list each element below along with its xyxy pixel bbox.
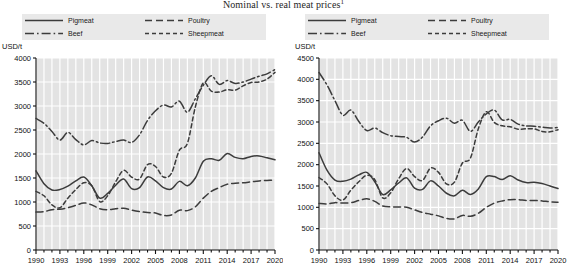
y-axis-tick-label: 4000	[297, 75, 314, 84]
x-axis-tick-label: 2014	[502, 256, 519, 265]
figure-title-text: Nominal vs. real meat prices	[223, 0, 340, 10]
x-axis-tick-label: 1999	[382, 256, 399, 265]
x-axis-tick-label: 2017	[243, 256, 260, 265]
y-axis-tick-label: 3500	[14, 78, 31, 87]
y-axis-tick-label: 2500	[14, 126, 31, 135]
x-axis-tick-label: 2008	[454, 256, 471, 265]
x-axis-tick-label: 2020	[267, 256, 283, 265]
chart-real: 0500100015002000250030003500400045001990…	[283, 10, 567, 272]
y-axis-tick-label: 2000	[14, 150, 31, 159]
x-axis-tick-label: 1999	[99, 256, 116, 265]
x-axis-tick-label: 2011	[478, 256, 494, 265]
figure-root: Nominal vs. real meat prices1 Pigmeat Po…	[0, 0, 567, 272]
x-axis-tick-label: 2005	[430, 256, 447, 265]
y-axis-tick-label: 1000	[14, 198, 31, 207]
x-axis-tick-label: 1996	[75, 256, 92, 265]
x-axis-tick-label: 2002	[123, 256, 140, 265]
y-axis-tick-label: 2000	[297, 160, 314, 169]
x-axis-tick-label: 2008	[171, 256, 188, 265]
y-axis-tick-label: 0	[310, 246, 314, 255]
x-axis-tick-label: 2002	[406, 256, 423, 265]
y-axis-tick-label: 3000	[297, 118, 314, 127]
x-axis-tick-label: 1993	[52, 256, 69, 265]
y-axis-tick-label: 500	[18, 222, 31, 231]
x-axis-tick-label: 1990	[28, 256, 45, 265]
y-axis-tick-label: 3000	[14, 102, 31, 111]
y-axis-tick-label: 3500	[297, 96, 314, 105]
y-axis-tick-label: 4500	[297, 54, 314, 63]
x-axis-tick-label: 2020	[550, 256, 567, 265]
x-axis-tick-label: 2011	[195, 256, 211, 265]
y-axis-tick-label: 500	[301, 224, 314, 233]
figure-title: Nominal vs. real meat prices1	[0, 0, 567, 10]
panel-real: Pigmeat Poultry Beef Sheepmeat USD/t 050…	[283, 10, 567, 272]
y-axis-tick-label: 4000	[14, 54, 31, 63]
y-axis-tick-label: 1500	[14, 174, 31, 183]
y-axis-tick-label: 2500	[297, 139, 314, 148]
x-axis-tick-label: 2017	[526, 256, 543, 265]
x-axis-tick-label: 2005	[147, 256, 164, 265]
x-axis-tick-label: 1990	[311, 256, 328, 265]
y-axis-tick-label: 1000	[297, 203, 314, 212]
panel-nominal: Pigmeat Poultry Beef Sheepmeat USD/t 050…	[0, 10, 283, 272]
x-axis-tick-label: 2014	[219, 256, 236, 265]
x-axis-tick-label: 1996	[358, 256, 375, 265]
y-axis-tick-label: 0	[27, 246, 31, 255]
y-axis-tick-label: 1500	[297, 182, 314, 191]
chart-nominal: 0500100015002000250030003500400019901993…	[0, 10, 283, 272]
x-axis-tick-label: 1993	[335, 256, 352, 265]
figure-title-footnote-marker: 1	[340, 0, 344, 6]
